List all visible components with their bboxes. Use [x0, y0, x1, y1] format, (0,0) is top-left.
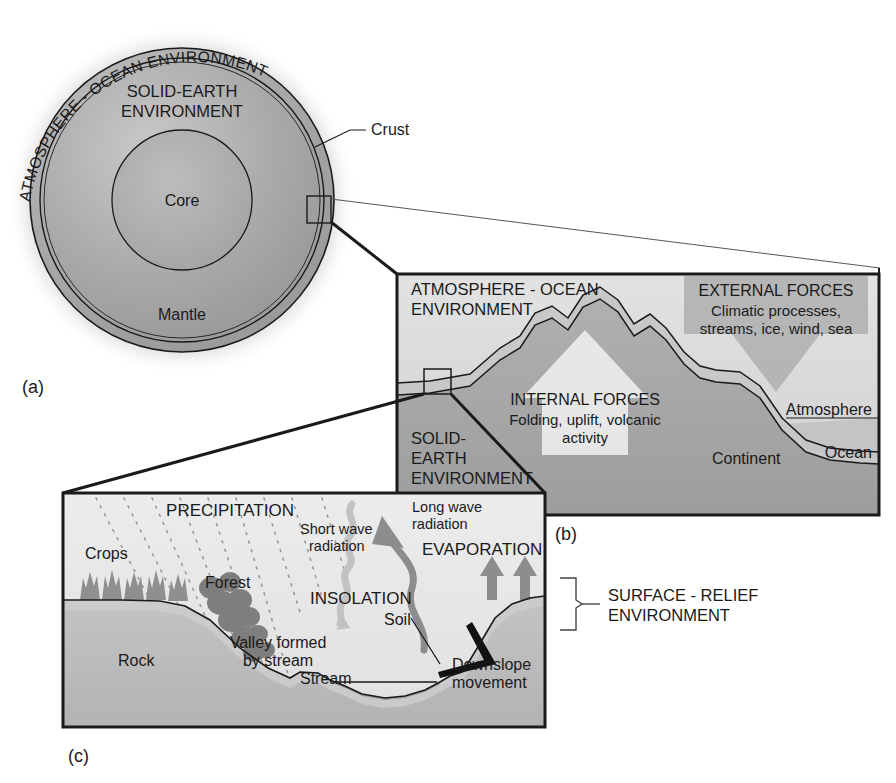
panel-c-short-wave-line2: radiation	[309, 538, 365, 554]
panel-b-external-forces-line1: Climatic processes,	[711, 302, 841, 319]
panel-a-solid-earth-title-line2: ENVIRONMENT	[121, 102, 243, 120]
zoom-connector-b-left	[63, 394, 424, 493]
panel-c-short-wave-line1: Short wave	[300, 521, 373, 537]
panel-c-rock-label: Rock	[118, 652, 155, 669]
panel-c-evaporation-label: EVAPORATION	[422, 540, 542, 559]
panel-c-long-wave-line1: Long wave	[412, 499, 482, 515]
panel-c-valley-line2: by stream	[243, 652, 313, 669]
panel-b-internal-forces-line1: Folding, uplift, volcanic	[509, 411, 661, 428]
panel-b-label: (b)	[555, 524, 577, 544]
panel-c-crops-label: Crops	[85, 545, 128, 562]
panel-b-environment-label-line2: ENVIRONMENT	[411, 300, 533, 318]
panel-b-ocean-label: Ocean	[825, 444, 872, 461]
panel-b-external-forces-line2: streams, ice, wind, sea	[700, 320, 853, 337]
panel-a-label: (a)	[22, 377, 44, 397]
earth-systems-diagram: ATMOSPHERE - OCEAN ENVIRONMENT SOLID-EAR…	[0, 0, 896, 783]
panel-a-crust-label: Crust	[371, 121, 410, 138]
panel-c-label: (c)	[68, 746, 89, 766]
panel-b-solid-earth-line3: ENVIRONMENT	[411, 469, 533, 487]
surface-relief-label-line2: ENVIRONMENT	[608, 606, 730, 624]
panel-c-forest-label: Forest	[205, 574, 251, 591]
panel-a-mantle-label: Mantle	[158, 306, 206, 323]
surface-relief-bracket-group: SURFACE - RELIEF ENVIRONMENT	[560, 578, 758, 630]
panel-c-stream-label: Stream	[300, 670, 352, 687]
panel-c-downslope-line2: movement	[452, 674, 527, 691]
panel-b-solid-earth-line1: SOLID-	[411, 429, 466, 447]
panel-b-internal-forces-heading: INTERNAL FORCES	[510, 391, 660, 408]
panel-b-solid-earth-line2: EARTH	[411, 449, 467, 467]
zoom-connector-a-top	[331, 199, 880, 268]
panel-c-downslope-line1: Downslope	[452, 656, 531, 673]
surface-relief-bracket	[560, 578, 582, 630]
panel-c-group: PRECIPITATION Short wave radiation Long …	[63, 493, 545, 766]
panel-b-continent-label: Continent	[712, 450, 781, 467]
panel-c-valley-line1: Valley formed	[230, 634, 327, 651]
panel-b-internal-forces-line2: activity	[562, 429, 608, 446]
panel-c-soil-label: Soil	[384, 611, 411, 628]
panel-a-solid-earth-title-line1: SOLID-EARTH	[127, 82, 238, 100]
panel-c-insolation-label: INSOLATION	[310, 589, 412, 608]
panel-c-long-wave-line2: radiation	[412, 516, 468, 532]
panel-b-environment-label-line1: ATMOSPHERE - OCEAN	[411, 280, 599, 298]
panel-b-atmosphere-label: Atmosphere	[786, 401, 872, 418]
panel-a-core-label: Core	[165, 192, 200, 209]
figure-canvas: ATMOSPHERE - OCEAN ENVIRONMENT SOLID-EAR…	[0, 0, 896, 783]
panel-b-external-forces-heading: EXTERNAL FORCES	[699, 282, 854, 299]
surface-relief-label-line1: SURFACE - RELIEF	[608, 586, 758, 604]
panel-c-precipitation-label: PRECIPITATION	[166, 501, 294, 520]
